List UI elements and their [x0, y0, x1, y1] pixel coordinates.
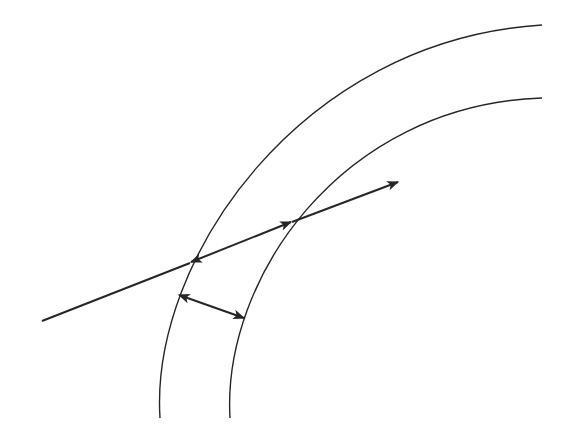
ray-outgoing-arrow [292, 182, 398, 222]
perpendicular-thickness-double-arrow [179, 295, 244, 318]
diagram-svg [0, 0, 576, 439]
ray-incoming-segment [42, 263, 190, 321]
outer-arc [160, 25, 542, 418]
diagram-canvas [0, 0, 576, 439]
ray-thickness-double-arrow [191, 222, 291, 262]
